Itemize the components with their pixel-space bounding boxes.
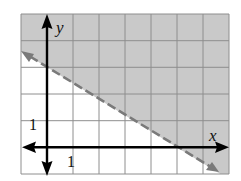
x-axis-label: x xyxy=(208,126,217,145)
x-axis-arrow-left-icon xyxy=(22,142,36,154)
inequality-graph: y x 1 1 xyxy=(0,0,241,181)
x-tick-label-1: 1 xyxy=(67,153,75,170)
y-axis-label: y xyxy=(54,18,64,37)
y-tick-label-1: 1 xyxy=(29,116,37,133)
